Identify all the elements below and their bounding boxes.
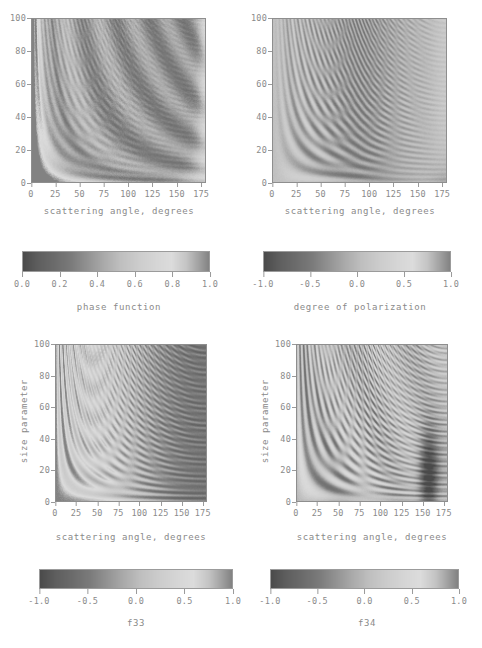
colorbar-label-f34: f34 [262, 618, 472, 628]
y-tick-label: 80 [280, 371, 296, 381]
colorbar-tick-label: 0.2 [52, 272, 68, 289]
colorbar-degree-of-polarization [263, 251, 451, 272]
y-tick-label: 100 [34, 339, 55, 349]
x-tick-label: 125 [394, 502, 410, 518]
xlabel-f33: scattering angle, degrees [26, 532, 236, 542]
colorbar-tick-label: 0.0 [349, 272, 365, 289]
y-tick-label: 60 [15, 79, 31, 89]
colorbar-tick-label: 0.4 [89, 272, 105, 289]
colorbar-label-degree-of-polarization: degree of polarization [255, 302, 465, 312]
colorbar-wrap-phase-function: 0.00.20.40.60.81.0 phase function [0, 240, 241, 330]
x-tick-label: 175 [195, 502, 211, 518]
y-tick-label: 60 [256, 79, 272, 89]
colorbar-tick-label: 0.0 [357, 589, 373, 606]
y-tick-label: 100 [10, 13, 31, 23]
x-tick-label: 25 [312, 502, 323, 518]
x-tick-label: 100 [372, 502, 388, 518]
x-tick-label: 175 [434, 183, 450, 199]
x-tick-label: 75 [354, 502, 365, 518]
panel-phase-function: 020406080100 0255075100125150175 scatter… [0, 0, 241, 240]
plot-frame-f33 [55, 344, 207, 502]
y-tick-label: 80 [256, 46, 272, 56]
y-tick-label: 20 [256, 145, 272, 155]
plot-area-f33: 020406080100 0255075100125150175 [55, 344, 207, 502]
colorbar-wrap-f33: -1.0-0.50.00.51.0 f33 [0, 560, 241, 648]
plot-area-f34: 020406080100 0255075100125150175 [296, 344, 448, 502]
colorbar-tick-label: 1.0 [451, 589, 467, 606]
x-tick-label: 100 [120, 183, 136, 199]
colorbar-label-phase-function: phase function [14, 302, 224, 312]
colorbar-tick-label: 1.0 [443, 272, 459, 289]
colorbar-tick-label: 0.5 [177, 589, 193, 606]
x-tick-label: 25 [71, 502, 82, 518]
colorbar-phase-function [22, 251, 210, 272]
colorbar-f34 [270, 569, 459, 589]
colorbar-tick-label: -0.5 [307, 589, 328, 606]
heatmap-f33 [56, 345, 206, 501]
colorbar-tick-label: -1.0 [259, 589, 280, 606]
colorbar-tick-label: 0.0 [14, 272, 30, 289]
panel-f34: 020406080100 0255075100125150175 size pa… [241, 330, 482, 560]
x-tick-label: 175 [436, 502, 452, 518]
colorbar-tick-label: 1.0 [225, 589, 241, 606]
x-tick-label: 25 [291, 183, 302, 199]
x-tick-label: 150 [410, 183, 426, 199]
colorbar-tick-label: 0.5 [404, 589, 420, 606]
colorbar-label-f33: f33 [31, 618, 241, 628]
panel-degree-of-polarization: 020406080100 0255075100125150175 scatter… [241, 0, 482, 240]
y-tick-label: 40 [280, 434, 296, 444]
x-tick-label: 25 [50, 183, 61, 199]
y-tick-label: 20 [280, 465, 296, 475]
xlabel-degree-of-polarization: scattering angle, degrees [255, 206, 465, 216]
ylabel-f33: size parameter [19, 366, 29, 476]
y-tick-label: 20 [15, 145, 31, 155]
x-tick-label: 100 [361, 183, 377, 199]
x-tick-label: 0 [269, 183, 274, 199]
x-tick-label: 150 [169, 183, 185, 199]
x-tick-label: 75 [99, 183, 110, 199]
x-tick-label: 150 [174, 502, 190, 518]
y-tick-label: 100 [275, 339, 296, 349]
colorbar-tick-label: -1.0 [28, 589, 49, 606]
colorbar-tick-label: 0.0 [128, 589, 144, 606]
heatmap-phase-function [32, 19, 205, 182]
y-tick-label: 40 [15, 112, 31, 122]
colorbar-wrap-f34: -1.0-0.50.00.51.0 f34 [241, 560, 482, 648]
panel-f33: 020406080100 0255075100125150175 size pa… [0, 330, 241, 560]
x-tick-label: 50 [92, 502, 103, 518]
plot-frame-phase-function [31, 18, 206, 183]
y-tick-label: 60 [39, 402, 55, 412]
y-tick-label: 60 [280, 402, 296, 412]
colorbar-tick-label: 0.8 [164, 272, 180, 289]
colorbar-tick-label: -0.5 [77, 589, 98, 606]
xlabel-phase-function: scattering angle, degrees [14, 206, 224, 216]
x-tick-label: 125 [153, 502, 169, 518]
x-tick-label: 50 [333, 502, 344, 518]
x-tick-label: 50 [315, 183, 326, 199]
x-tick-label: 125 [386, 183, 402, 199]
plot-area-degree-of-polarization: 020406080100 0255075100125150175 [272, 18, 447, 183]
y-tick-label: 100 [251, 13, 272, 23]
x-tick-label: 100 [131, 502, 147, 518]
x-tick-label: 0 [293, 502, 298, 518]
y-tick-label: 80 [39, 371, 55, 381]
plot-frame-f34 [296, 344, 448, 502]
x-tick-label: 0 [52, 502, 57, 518]
y-tick-label: 80 [15, 46, 31, 56]
y-tick-label: 20 [39, 465, 55, 475]
colorbar-tick-label: 0.6 [127, 272, 143, 289]
colorbar-f33 [39, 569, 233, 589]
x-tick-label: 75 [340, 183, 351, 199]
colorbar-tick-label: -0.5 [299, 272, 320, 289]
heatmap-f34 [297, 345, 447, 501]
x-tick-label: 75 [113, 502, 124, 518]
colorbar-wrap-degree-of-polarization: -1.0-0.50.00.51.0 degree of polarization [241, 240, 482, 330]
x-tick-label: 50 [74, 183, 85, 199]
plot-frame-degree-of-polarization [272, 18, 447, 183]
ylabel-f34: size parameter [260, 366, 270, 476]
plot-area-phase-function: 020406080100 0255075100125150175 [31, 18, 206, 183]
x-tick-label: 0 [28, 183, 33, 199]
y-tick-label: 40 [39, 434, 55, 444]
colorbar-tick-label: 1.0 [202, 272, 218, 289]
xlabel-f34: scattering angle, degrees [267, 532, 477, 542]
